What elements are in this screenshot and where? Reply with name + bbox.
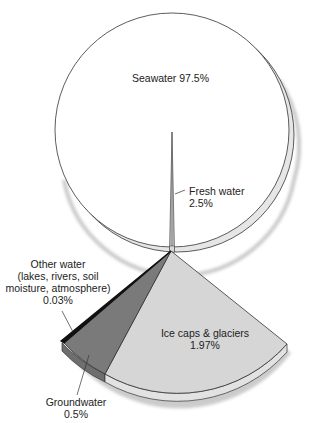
- other-water-label-detail-2: moisture, atmosphere): [4, 282, 112, 294]
- seawater-label: Seawater 97.5%: [132, 72, 209, 84]
- other-water-label-value: 0.03%: [4, 294, 112, 306]
- ice-caps-label: Ice caps & glaciers 1.97%: [145, 327, 265, 351]
- ice-caps-label-name: Ice caps & glaciers: [145, 327, 265, 339]
- groundwater-label-name: Groundwater: [40, 396, 112, 408]
- fresh-water-label: Fresh water 2.5%: [189, 185, 244, 209]
- fresh-water-label-name: Fresh water: [189, 185, 244, 197]
- other-water-label: Other water (lakes, rivers, soil moistur…: [4, 258, 112, 306]
- fresh-water-label-value: 2.5%: [189, 197, 244, 209]
- pie-chart-graphic: [0, 0, 311, 423]
- other-water-label-detail-1: (lakes, rivers, soil: [4, 270, 112, 282]
- groundwater-label: Groundwater 0.5%: [40, 396, 112, 420]
- other-water-leader: [62, 311, 73, 332]
- groundwater-label-value: 0.5%: [40, 408, 112, 420]
- seawater-disc: [55, 13, 299, 275]
- other-water-label-name: Other water: [4, 258, 112, 270]
- ice-caps-label-value: 1.97%: [145, 339, 265, 351]
